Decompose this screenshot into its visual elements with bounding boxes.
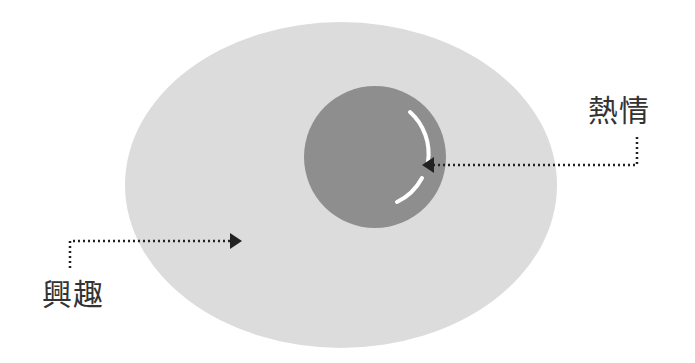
interest-label: 興趣 (42, 280, 104, 310)
venn-diagram (0, 0, 695, 363)
passion-circle (304, 86, 446, 228)
passion-label: 熱情 (588, 96, 650, 126)
